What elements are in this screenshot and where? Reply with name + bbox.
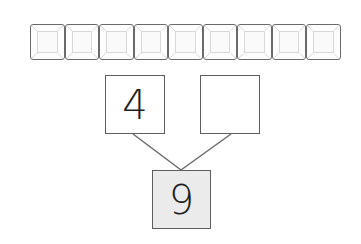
part-left-value: 4 [122, 82, 147, 128]
whole-value: 9 [169, 177, 194, 223]
whole-box: 9 [152, 170, 211, 229]
part-left-box: 4 [105, 75, 165, 134]
part-right-box[interactable] [200, 75, 260, 134]
